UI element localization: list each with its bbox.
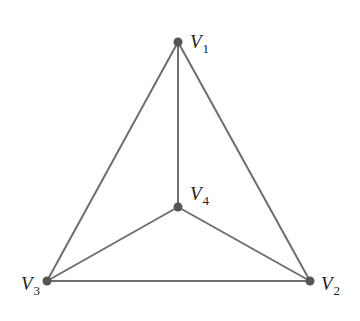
vertex-label-v3: V3: [21, 273, 40, 298]
vertex-label-subscript: 3: [34, 283, 41, 298]
vertex-label-v1: V1: [190, 31, 209, 56]
vertex-v1: [174, 38, 183, 47]
vertex-v2: [306, 277, 315, 286]
vertex-label-subscript: 2: [334, 283, 341, 298]
edge-v1-v3: [47, 42, 178, 281]
graph-diagram: V1V2V3V4: [0, 0, 360, 321]
vertex-label-subscript: 4: [203, 193, 210, 208]
vertex-v4: [174, 203, 183, 212]
vertex-v3: [43, 277, 52, 286]
vertex-label-subscript: 1: [203, 41, 210, 56]
vertex-label-v4: V4: [190, 183, 210, 208]
vertex-label-v2: V2: [321, 273, 340, 298]
edge-v1-v2: [178, 42, 310, 281]
labels-group: V1V2V3V4: [21, 31, 340, 298]
edges-group: [47, 42, 310, 281]
